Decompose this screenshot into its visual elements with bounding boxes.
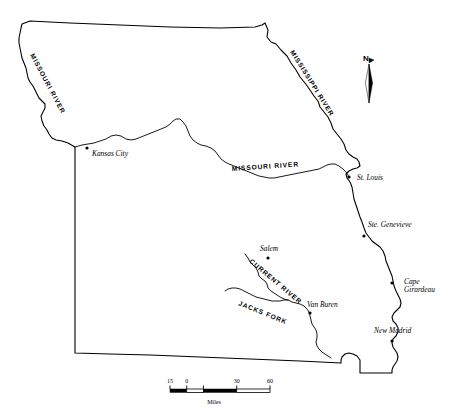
city-label-van-buren: Van Buren xyxy=(307,300,338,309)
city-dot-new-madrid xyxy=(390,339,393,342)
map-canvas: Kansas CitySt. LouisSte. GenevieveSalemV… xyxy=(0,0,456,420)
city-label-kansas-city: Kansas City xyxy=(91,149,129,158)
scale-tick-label-1: 0 xyxy=(185,378,188,384)
city-dot-ste-genevieve xyxy=(362,234,365,237)
scale-segment-1 xyxy=(170,389,187,392)
city-label-salem: Salem xyxy=(260,244,279,253)
north-arrow-left-half xyxy=(365,64,369,103)
north-arrow-right-half xyxy=(369,64,373,103)
city-label-cape-girardeau: CapeGirardeau xyxy=(404,277,435,294)
city-label-st-louis: St. Louis xyxy=(357,173,383,182)
north-arrow-letter: N xyxy=(363,54,369,63)
scale-segment-4 xyxy=(237,389,270,392)
city-label-line-2: Girardeau xyxy=(404,285,435,294)
scale-segment-2 xyxy=(187,389,204,392)
city-dot-salem xyxy=(266,256,269,259)
scale-units-label: Miles xyxy=(207,399,221,405)
scale-tick-label-0: 15 xyxy=(167,378,173,384)
city-label-new-madrid: New Madrid xyxy=(373,326,411,335)
map-figure: Kansas CitySt. LouisSte. GenevieveSalemV… xyxy=(0,0,456,420)
scale-tick-labels-group: 1503060 xyxy=(167,378,273,384)
city-label-ste-genevieve: Ste. Genevieve xyxy=(368,220,412,229)
scale-tick-label-2: 30 xyxy=(234,378,240,384)
missouri-state-outline xyxy=(19,21,401,373)
scale-bar: 1503060 Miles xyxy=(167,378,273,405)
city-dot-st-louis xyxy=(347,175,350,178)
scale-segment-3 xyxy=(203,389,236,392)
scale-tick-label-3: 60 xyxy=(267,378,273,384)
city-dot-cape-girardeau xyxy=(390,281,393,284)
north-arrow: N xyxy=(363,54,374,103)
city-dot-kansas-city xyxy=(85,146,88,149)
north-arrow-flag xyxy=(369,58,374,63)
city-dot-van-buren xyxy=(308,311,311,314)
